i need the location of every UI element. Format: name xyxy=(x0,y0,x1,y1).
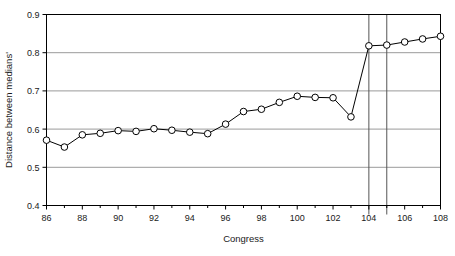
data-point-marker xyxy=(383,42,390,49)
data-point-marker xyxy=(43,137,50,144)
y-tick-label: 0.5 xyxy=(27,163,40,173)
data-point-marker xyxy=(437,33,444,40)
data-point-marker xyxy=(204,130,211,137)
data-point-marker xyxy=(222,121,229,128)
y-tick-label: 0.7 xyxy=(27,86,40,96)
data-point-marker xyxy=(294,93,301,100)
y-tick-labels: 0.40.50.60.70.80.9 xyxy=(27,10,40,211)
data-point-marker xyxy=(330,94,337,101)
x-tick-label: 88 xyxy=(77,213,87,223)
data-point-marker xyxy=(115,127,122,134)
x-tick-label: 92 xyxy=(149,213,159,223)
data-point-marker xyxy=(366,43,373,50)
y-tick-label: 0.9 xyxy=(27,10,40,20)
data-point-marker xyxy=(151,125,158,132)
data-point-marker xyxy=(240,108,247,115)
data-point-marker xyxy=(348,114,355,121)
y-tick-label: 0.6 xyxy=(27,125,40,135)
data-point-marker xyxy=(312,94,319,101)
x-tick-label: 86 xyxy=(41,213,51,223)
x-tick-label: 96 xyxy=(221,213,231,223)
data-point-marker xyxy=(258,106,265,113)
data-point-marker xyxy=(401,39,408,46)
y-tick-label: 0.8 xyxy=(27,48,40,58)
y-tick-label: 0.4 xyxy=(27,201,40,211)
x-tick-label: 94 xyxy=(185,213,195,223)
x-tick-label: 106 xyxy=(397,213,412,223)
data-point-marker xyxy=(276,99,283,106)
data-point-marker xyxy=(186,129,193,136)
x-axis-ticks xyxy=(47,206,441,210)
data-point-marker xyxy=(419,36,426,43)
x-tick-label: 98 xyxy=(256,213,266,223)
data-point-marker xyxy=(97,130,104,137)
x-tick-label: 90 xyxy=(113,213,123,223)
data-point-marker xyxy=(61,144,68,151)
chart-container: 86889092949698100102104106108 0.40.50.60… xyxy=(0,0,455,256)
data-point-marker xyxy=(79,132,86,139)
x-tick-label: 100 xyxy=(290,213,305,223)
data-point-marker xyxy=(169,127,176,134)
line-chart: 86889092949698100102104106108 0.40.50.60… xyxy=(0,0,455,256)
x-tick-label: 108 xyxy=(433,213,448,223)
y-axis-ticks xyxy=(43,15,47,206)
y-axis-title: Distance between medians' xyxy=(3,52,14,168)
x-tick-label: 104 xyxy=(361,213,376,223)
data-point-marker xyxy=(133,128,140,135)
x-tick-label: 102 xyxy=(326,213,341,223)
x-axis-title: Congress xyxy=(223,233,264,244)
